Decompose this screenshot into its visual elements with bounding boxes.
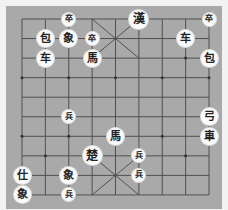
piece-red-advisor[interactable]: 仕 xyxy=(14,167,31,184)
piece-black-general[interactable]: 漢 xyxy=(129,10,148,29)
star-point xyxy=(44,154,47,157)
star-point xyxy=(114,76,117,79)
star-point xyxy=(21,135,24,138)
star-point xyxy=(21,76,24,79)
piece-red-chariot[interactable]: 車 xyxy=(201,128,218,145)
piece-black-soldier[interactable]: 卒 xyxy=(203,13,216,26)
star-point xyxy=(161,76,164,79)
xiangqi-board[interactable]: 卒漢卒包象卒车车馬包兵弓馬車楚兵仕象兵象兵 xyxy=(6,6,222,209)
piece-red-cannon[interactable]: 弓 xyxy=(201,108,218,125)
star-point xyxy=(208,76,211,79)
piece-red-elephant[interactable]: 象 xyxy=(14,186,31,203)
piece-red-general[interactable]: 楚 xyxy=(83,146,102,165)
piece-black-soldier[interactable]: 卒 xyxy=(86,32,99,45)
piece-black-chariot[interactable]: 车 xyxy=(37,50,54,67)
star-point xyxy=(184,154,187,157)
star-point xyxy=(161,135,164,138)
star-point xyxy=(67,135,70,138)
star-point xyxy=(67,76,70,79)
piece-black-horse[interactable]: 馬 xyxy=(84,50,101,67)
piece-black-cannon[interactable]: 包 xyxy=(201,50,218,67)
piece-black-cannon[interactable]: 包 xyxy=(37,30,54,47)
star-point xyxy=(184,57,187,60)
piece-black-soldier[interactable]: 卒 xyxy=(62,13,75,26)
piece-red-horse[interactable]: 馬 xyxy=(107,128,124,145)
